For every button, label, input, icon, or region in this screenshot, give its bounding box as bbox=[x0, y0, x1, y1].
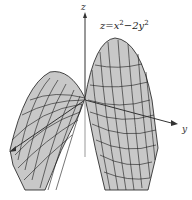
equation-exponent: 2 bbox=[144, 19, 148, 27]
equation-label: z=x2−2y2 bbox=[100, 19, 149, 31]
z-axis-label: z bbox=[81, 2, 86, 12]
y-axis-label: y bbox=[182, 124, 187, 134]
equation-part: −2y bbox=[124, 20, 144, 31]
saddle-surface-figure bbox=[0, 0, 192, 200]
z-axis bbox=[83, 12, 87, 100]
equation-part: z=x bbox=[100, 20, 119, 31]
